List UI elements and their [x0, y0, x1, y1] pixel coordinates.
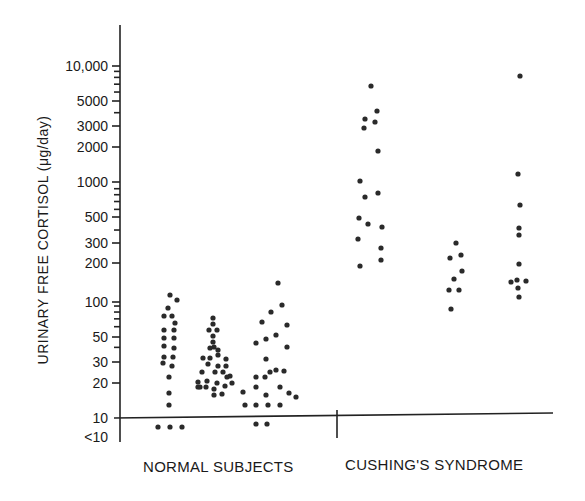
data-point	[166, 402, 171, 407]
data-point	[210, 339, 215, 344]
data-point	[365, 221, 370, 226]
data-point	[515, 171, 520, 176]
data-point	[374, 108, 379, 113]
data-point	[355, 236, 360, 241]
data-point	[171, 327, 176, 332]
data-point	[214, 380, 219, 385]
data-point	[155, 424, 160, 429]
data-point	[210, 333, 215, 338]
data-point	[204, 378, 209, 383]
data-point	[375, 148, 380, 153]
data-point	[219, 391, 224, 396]
data-point	[456, 287, 461, 292]
y-tick-label: 2000	[77, 139, 108, 155]
data-point	[262, 374, 267, 379]
y-tick-label: 500	[85, 209, 109, 225]
group-label-normal: NORMAL SUBJECTS	[143, 458, 294, 475]
data-point	[361, 125, 366, 130]
data-point	[379, 224, 384, 229]
data-point	[378, 257, 383, 262]
data-point	[167, 292, 172, 297]
data-point	[267, 369, 272, 374]
data-point	[161, 354, 166, 359]
data-point	[516, 232, 521, 237]
data-point	[268, 309, 273, 314]
data-point	[222, 383, 227, 388]
data-point	[253, 421, 258, 426]
data-point	[215, 347, 220, 352]
data-point	[263, 356, 268, 361]
data-point	[200, 355, 205, 360]
data-point	[161, 327, 166, 332]
data-point	[224, 374, 229, 379]
data-point	[169, 313, 174, 318]
data-point	[207, 355, 212, 360]
baseline-10	[114, 413, 553, 418]
data-point	[523, 278, 528, 283]
y-tick-label: 50	[92, 329, 108, 345]
data-point	[205, 361, 210, 366]
data-point	[357, 178, 362, 183]
y-tick-label: 10	[92, 410, 108, 426]
data-point	[517, 73, 522, 78]
y-tick-label: 3000	[77, 118, 108, 134]
data-point	[362, 116, 367, 121]
data-point	[356, 215, 361, 220]
data-point	[453, 240, 458, 245]
data-point	[242, 402, 247, 407]
data-point	[265, 402, 270, 407]
data-point	[275, 280, 280, 285]
data-point	[203, 384, 208, 389]
y-tick-label: 1000	[77, 174, 108, 190]
data-point	[179, 424, 184, 429]
y-tick-label: 5000	[77, 93, 108, 109]
data-point	[273, 332, 278, 337]
data-point	[458, 252, 463, 257]
y-tick-label: 300	[85, 235, 109, 251]
data-point	[277, 402, 282, 407]
data-point	[375, 190, 380, 195]
data-point	[220, 369, 225, 374]
data-point	[448, 306, 453, 311]
data-points	[155, 73, 528, 429]
data-point	[160, 360, 165, 365]
data-point	[368, 83, 373, 88]
data-point	[170, 354, 175, 359]
group-label-cushing: CUSHING'S SYNDROME	[345, 456, 523, 473]
y-tick-label: <10	[84, 429, 108, 445]
data-point	[508, 279, 513, 284]
data-point	[167, 424, 172, 429]
y-axis-label: URINARY FREE CORTISOL (μg/day)	[35, 116, 51, 365]
y-minor-ticks	[114, 71, 120, 347]
data-point	[211, 386, 216, 391]
data-point	[214, 327, 219, 332]
data-point	[210, 315, 215, 320]
data-point	[281, 368, 286, 373]
data-point	[253, 340, 258, 345]
data-point	[515, 285, 520, 290]
data-point	[253, 374, 258, 379]
data-point	[199, 369, 204, 374]
data-point	[206, 327, 211, 332]
data-point	[161, 313, 166, 318]
data-point	[171, 335, 176, 340]
data-point	[357, 263, 362, 268]
data-point	[229, 380, 234, 385]
data-point	[161, 335, 166, 340]
data-point	[263, 336, 268, 341]
y-ticks	[112, 66, 120, 383]
data-point	[264, 421, 269, 426]
data-point	[286, 390, 291, 395]
y-tick-label: 20	[92, 375, 108, 391]
data-point	[263, 392, 268, 397]
data-point	[447, 255, 452, 260]
data-point	[223, 356, 228, 361]
data-point	[451, 276, 456, 281]
data-point	[210, 321, 215, 326]
data-point	[211, 392, 216, 397]
data-point	[284, 322, 289, 327]
data-point	[161, 343, 166, 348]
data-point	[172, 320, 177, 325]
data-point	[253, 384, 258, 389]
data-point	[259, 319, 264, 324]
